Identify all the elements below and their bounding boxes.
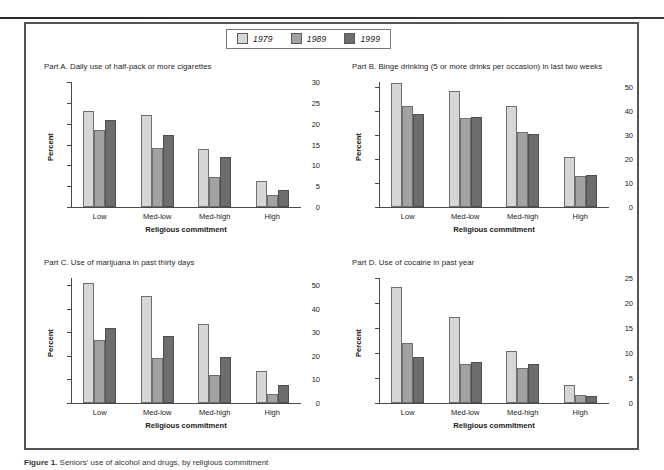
bar	[564, 385, 575, 403]
bar	[209, 177, 220, 207]
bar	[163, 135, 174, 207]
y-tick-label: 0	[608, 399, 633, 408]
bar	[267, 195, 278, 208]
bar	[413, 357, 424, 403]
bar	[152, 358, 163, 403]
bar	[564, 157, 575, 207]
bar	[278, 190, 289, 207]
bar	[391, 287, 402, 404]
bar	[152, 148, 163, 207]
panel-d-title: Part D. Use of cocaine in past year	[352, 258, 637, 267]
bar	[256, 371, 267, 403]
bar-group	[379, 82, 437, 207]
chart-panel-c: Part C. Use of marijuana in past thirty …	[44, 258, 324, 448]
bar	[105, 328, 116, 403]
panel-c-title: Part C. Use of marijuana in past thirty …	[44, 258, 324, 267]
bar	[586, 396, 597, 403]
bar	[506, 351, 517, 403]
x-tick-label: Med-high	[494, 408, 552, 417]
bar-group	[244, 278, 302, 403]
bar	[83, 111, 94, 207]
bar	[141, 115, 152, 207]
x-tick-label: Med-low	[129, 212, 187, 221]
chart-panel-b: Part B. Binge drinking (5 or more drinks…	[352, 62, 637, 252]
x-axis-line	[379, 403, 609, 404]
y-axis-title: Percent	[46, 329, 55, 357]
y-tick-label: 50	[608, 82, 633, 91]
y-tick-label: 10	[608, 349, 633, 358]
bar	[517, 132, 528, 207]
legend-swatch-1989	[291, 33, 302, 44]
bar	[449, 91, 460, 207]
panel-b-plot: 01020304050PercentLowMed-lowMed-highHigh…	[352, 78, 637, 239]
bar	[528, 134, 539, 207]
bar	[198, 149, 209, 207]
bar-group	[129, 82, 187, 207]
bar	[402, 106, 413, 207]
bar-group	[494, 82, 552, 207]
bar-group	[186, 278, 244, 403]
x-tick-label: Low	[379, 212, 437, 221]
bar	[141, 296, 152, 403]
top-horizontal-rule	[0, 17, 664, 19]
panel-c-plot: 01020304050PercentLowMed-lowMed-highHigh…	[44, 274, 324, 435]
legend-label-1979: 1979	[253, 34, 273, 44]
bar	[94, 340, 105, 403]
chart-panel-a: Part A. Daily use of half-pack or more c…	[44, 62, 324, 252]
x-tick-label: High	[244, 212, 302, 221]
y-tick-label: 40	[608, 106, 633, 115]
bar	[575, 176, 586, 207]
legend-label-1989: 1989	[307, 34, 327, 44]
bar-group	[186, 82, 244, 207]
panel-d-plot: 0510152025PercentLowMed-lowMed-highHighR…	[352, 274, 637, 435]
y-tick-label: 20	[608, 299, 633, 308]
y-axis-title: Percent	[354, 329, 363, 357]
bar-group	[71, 82, 129, 207]
y-axis-title: Percent	[46, 133, 55, 161]
x-tick-label: Med-low	[437, 212, 495, 221]
x-tick-label: Low	[71, 408, 129, 417]
bar	[449, 317, 460, 404]
x-tick-label: High	[552, 212, 610, 221]
figure-caption: Figure 1. Seniors' use of alcohol and dr…	[24, 458, 639, 470]
bar-group	[437, 82, 495, 207]
bar	[575, 395, 586, 403]
legend-item-1999: 1999	[344, 33, 380, 44]
bar-group	[552, 82, 610, 207]
x-tick-label: Low	[379, 408, 437, 417]
bar-group	[71, 278, 129, 403]
bar	[506, 106, 517, 207]
y-tick-label: 5	[608, 374, 633, 383]
x-axis-title: Religious commitment	[71, 225, 301, 234]
x-axis-title: Religious commitment	[71, 421, 301, 430]
bar	[105, 120, 116, 207]
y-axis-title: Percent	[354, 133, 363, 161]
bar-group	[437, 278, 495, 403]
y-tick-label: 10	[608, 178, 633, 187]
bar	[402, 343, 413, 404]
bar	[256, 181, 267, 207]
x-axis-line	[379, 207, 609, 208]
x-tick-label: Med-low	[437, 408, 495, 417]
legend-swatch-1979	[237, 33, 248, 44]
chart-legend: 1979 1989 1999	[226, 29, 391, 49]
bar	[220, 157, 231, 207]
bar	[460, 118, 471, 207]
panel-a-plot: 051015202530PercentLowMed-lowMed-highHig…	[44, 78, 324, 239]
panel-b-title: Part B. Binge drinking (5 or more drinks…	[352, 62, 637, 71]
bar	[83, 283, 94, 403]
bar	[471, 362, 482, 403]
x-tick-label: Med-high	[494, 212, 552, 221]
bar	[209, 375, 220, 403]
x-axis-title: Religious commitment	[379, 225, 609, 234]
y-tick-label: 15	[608, 324, 633, 333]
bar-group	[379, 278, 437, 403]
x-tick-label: Med-low	[129, 408, 187, 417]
bar	[278, 385, 289, 403]
bar	[163, 336, 174, 403]
bar-group	[552, 278, 610, 403]
x-axis-title: Religious commitment	[379, 421, 609, 430]
bar-group	[129, 278, 187, 403]
bar-group	[244, 82, 302, 207]
bar	[528, 364, 539, 403]
